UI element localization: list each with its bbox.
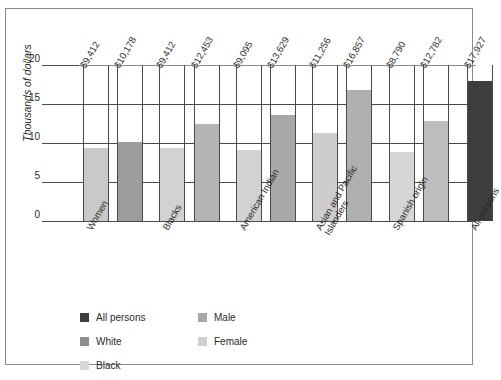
gridline-y bbox=[79, 104, 476, 105]
gridline-x bbox=[371, 65, 372, 221]
gridline-x bbox=[219, 65, 220, 221]
legend-label: Female bbox=[214, 336, 247, 347]
gridline-x bbox=[448, 65, 449, 221]
y-tick-rule bbox=[42, 65, 80, 66]
legend-item[interactable]: All persons bbox=[80, 312, 145, 323]
bar[interactable] bbox=[271, 115, 295, 221]
gridline-x bbox=[184, 65, 185, 221]
legend-item[interactable]: Female bbox=[198, 336, 247, 347]
legend-item[interactable]: Black bbox=[80, 360, 120, 371]
bar[interactable] bbox=[424, 121, 448, 221]
legend-swatch-icon bbox=[80, 337, 89, 346]
gridline-x bbox=[142, 65, 143, 221]
legend-swatch-icon bbox=[80, 361, 89, 370]
legend-label: White bbox=[96, 336, 122, 347]
bar[interactable] bbox=[118, 142, 142, 221]
gridline-x bbox=[108, 65, 109, 221]
chart-frame: Thousands of dollars 05101520 $9,412$10,… bbox=[5, 8, 473, 365]
y-tick-label: 0 bbox=[14, 210, 40, 220]
legend-label: Male bbox=[214, 312, 236, 323]
y-tick-rule bbox=[42, 182, 80, 183]
gridline-y bbox=[79, 221, 476, 222]
y-tick-rule bbox=[42, 221, 80, 222]
legend-label: Black bbox=[96, 360, 120, 371]
legend-swatch-icon bbox=[198, 337, 207, 346]
y-tick-label: 15 bbox=[14, 93, 40, 103]
y-tick-label: 10 bbox=[14, 132, 40, 142]
bar[interactable] bbox=[195, 124, 219, 221]
y-tick-rule bbox=[42, 104, 80, 105]
y-tick-label: 5 bbox=[14, 171, 40, 181]
gridline-x bbox=[295, 65, 296, 221]
legend-item[interactable]: White bbox=[80, 336, 122, 347]
legend-swatch-icon bbox=[80, 313, 89, 322]
y-tick-rule bbox=[42, 143, 80, 144]
legend-label: All persons bbox=[96, 312, 145, 323]
legend-item[interactable]: Male bbox=[198, 312, 236, 323]
gridline-y bbox=[79, 65, 476, 66]
legend-swatch-icon bbox=[198, 313, 207, 322]
y-tick-label: 20 bbox=[14, 54, 40, 64]
